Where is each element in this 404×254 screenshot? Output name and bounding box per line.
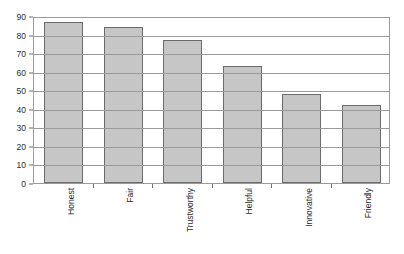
plot-area bbox=[33, 17, 390, 184]
y-tick-label: 90 bbox=[17, 13, 26, 22]
y-tick-label: 60 bbox=[17, 68, 26, 77]
y-tick-label: 30 bbox=[17, 124, 26, 133]
gridline bbox=[34, 91, 389, 92]
y-tick-label: 40 bbox=[17, 106, 26, 115]
y-tick-label: 20 bbox=[17, 143, 26, 152]
x-axis-category-label: Trustworthy bbox=[186, 188, 195, 232]
gridline bbox=[34, 73, 389, 74]
gridline bbox=[34, 54, 389, 55]
y-tick-label: 10 bbox=[17, 161, 26, 170]
gridline bbox=[34, 147, 389, 148]
bar bbox=[282, 94, 321, 183]
bars-layer bbox=[34, 18, 389, 183]
gridline bbox=[34, 128, 389, 129]
y-axis: 0102030405060708090 bbox=[0, 0, 33, 254]
bar bbox=[163, 40, 202, 183]
bar bbox=[104, 27, 143, 183]
gridline bbox=[34, 165, 389, 166]
x-axis-category-label: Innovative bbox=[305, 188, 314, 227]
x-axis-category-label: Honest bbox=[67, 188, 76, 215]
bar-chart: 0102030405060708090 HonestFairTrustworth… bbox=[0, 0, 404, 254]
gridline bbox=[34, 36, 389, 37]
y-tick-label: 0 bbox=[21, 180, 26, 189]
x-axis-category-label: Helpful bbox=[245, 188, 254, 214]
bar bbox=[342, 105, 381, 183]
gridline bbox=[34, 110, 389, 111]
y-tick-label: 70 bbox=[17, 50, 26, 59]
x-axis-labels: HonestFairTrustworthyHelpfulInnovativeFr… bbox=[33, 188, 390, 254]
y-tick-label: 50 bbox=[17, 87, 26, 96]
bar bbox=[44, 22, 83, 183]
x-axis-category-label: Fair bbox=[126, 188, 135, 203]
x-axis-category-label: Friendly bbox=[364, 188, 373, 218]
y-tick-label: 80 bbox=[17, 31, 26, 40]
